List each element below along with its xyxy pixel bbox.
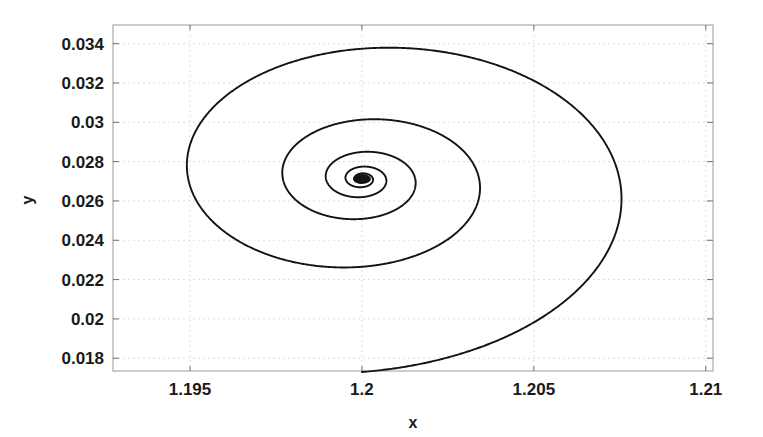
y-tick-label: 0.024 [61, 231, 104, 250]
y-tick-label: 0.026 [61, 192, 104, 211]
x-axis-title: x [409, 414, 418, 431]
x-tick-label: 1.2 [350, 380, 374, 399]
figure-container: 1.1951.21.2051.21 0.0180.020.0220.0240.0… [0, 0, 763, 437]
y-tick-label: 0.022 [61, 271, 104, 290]
x-tick-label: 1.195 [169, 380, 212, 399]
fixed-point-marker [353, 174, 371, 184]
y-tick-label: 0.028 [61, 153, 104, 172]
y-tick-label: 0.034 [61, 35, 104, 54]
x-tick-label: 1.205 [513, 380, 556, 399]
x-tick-label: 1.21 [689, 380, 722, 399]
y-tick-label: 0.018 [61, 349, 104, 368]
spiral-phase-plot: 1.1951.21.2051.21 0.0180.020.0220.0240.0… [0, 0, 763, 437]
y-axis-title: y [19, 195, 36, 204]
y-tick-label: 0.032 [61, 74, 104, 93]
y-tick-label: 0.03 [71, 113, 104, 132]
y-tick-label: 0.02 [71, 310, 104, 329]
